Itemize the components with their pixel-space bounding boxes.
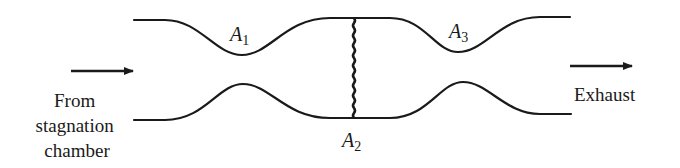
wind-tunnel-diagram: From stagnation chamber Exhaust A1 A2 A3: [0, 0, 680, 168]
area-3-label: A3: [447, 20, 468, 45]
inlet-label: From stagnation chamber: [36, 90, 119, 161]
exhaust-label: Exhaust: [574, 84, 636, 105]
area-2-label: A2: [340, 129, 361, 154]
area-1-label: A1: [228, 23, 249, 48]
normal-shock: [353, 18, 355, 118]
